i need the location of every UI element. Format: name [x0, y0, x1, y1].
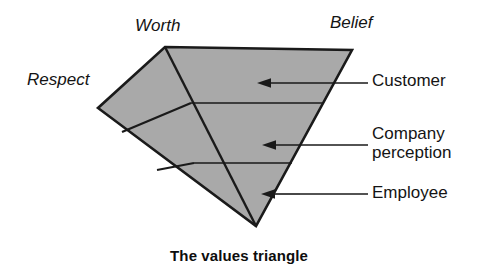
vertex-label-worth: Worth: [135, 16, 180, 36]
callout-label-company-line1: Company: [372, 124, 451, 143]
triangle-body: [98, 47, 352, 226]
triangle-outline: [98, 47, 352, 226]
callout-label-customer: Customer: [372, 71, 446, 90]
callout-label-company-line2: perception: [372, 143, 451, 162]
callout-label-employee: Employee: [372, 183, 448, 202]
figure-caption: The values triangle: [0, 247, 478, 264]
callout-label-company-perception: Company perception: [372, 124, 451, 162]
vertex-label-belief: Belief: [330, 13, 373, 33]
vertex-label-respect: Respect: [27, 70, 89, 90]
figure-container: Worth Belief Respect Customer Company pe…: [0, 0, 478, 278]
